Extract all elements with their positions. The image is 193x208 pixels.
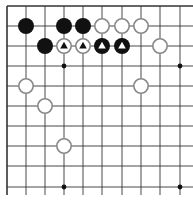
black-stone[interactable] bbox=[114, 38, 130, 54]
white-stone[interactable] bbox=[134, 19, 148, 33]
black-stone[interactable] bbox=[56, 18, 72, 34]
black-stone[interactable] bbox=[75, 18, 91, 34]
white-stone[interactable] bbox=[134, 79, 148, 93]
white-stone[interactable] bbox=[38, 99, 52, 113]
white-stone[interactable] bbox=[153, 39, 167, 53]
white-stone[interactable] bbox=[57, 139, 71, 153]
star-point bbox=[178, 185, 183, 190]
black-stone[interactable] bbox=[18, 18, 34, 34]
white-stone[interactable] bbox=[95, 19, 109, 33]
board-grid bbox=[7, 6, 193, 195]
white-stone[interactable] bbox=[76, 39, 90, 53]
white-stone[interactable] bbox=[19, 79, 33, 93]
go-board bbox=[0, 0, 193, 208]
star-point bbox=[62, 64, 67, 69]
black-stone[interactable] bbox=[94, 38, 110, 54]
black-stone[interactable] bbox=[37, 38, 53, 54]
white-stone[interactable] bbox=[57, 39, 71, 53]
star-point bbox=[62, 185, 67, 190]
white-stone[interactable] bbox=[115, 19, 129, 33]
star-point bbox=[178, 64, 183, 69]
